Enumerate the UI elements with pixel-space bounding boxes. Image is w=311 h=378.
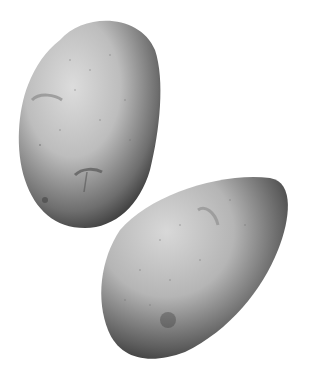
potato-upper-left	[19, 21, 161, 228]
potatoes-illustration	[0, 0, 311, 378]
